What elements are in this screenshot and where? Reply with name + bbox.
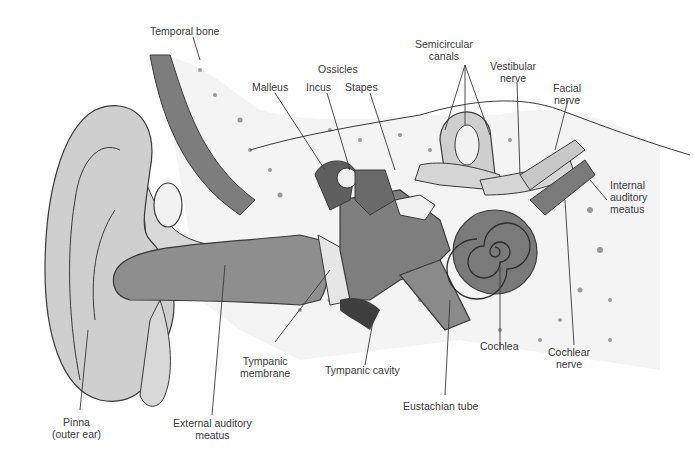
label-internal-auditory-meatus: Internal auditory meatus [610, 179, 647, 215]
label-pinna-line2: (outer ear) [52, 428, 101, 440]
label-pinna-line1: Pinna [52, 416, 101, 428]
label-vestibular-line2: nerve [490, 72, 536, 84]
label-tm-line2: membrane [240, 367, 290, 379]
label-iam-line1: Internal [610, 179, 647, 191]
label-tm-line1: Tympanic [240, 355, 290, 367]
label-temporal-bone: Temporal bone [150, 25, 219, 37]
label-tympanic-membrane: Tympanic membrane [240, 355, 290, 379]
label-tympanic-cavity: Tympanic cavity [325, 364, 400, 376]
label-external-auditory-meatus: External auditory meatus [173, 417, 252, 441]
label-cochlea: Cochlea [480, 340, 519, 352]
label-stapes: Stapes [345, 81, 378, 93]
label-semicircular-line2: canals [415, 50, 473, 62]
label-facial-line2: nerve [553, 94, 581, 106]
label-semicircular-canals: Semicircular canals [415, 38, 473, 62]
label-iam-line2: auditory [610, 191, 647, 203]
label-cochlear-nerve-line2: nerve [548, 358, 590, 370]
label-incus: Incus [306, 81, 331, 93]
label-facial-line1: Facial [553, 82, 581, 94]
label-cochlear-nerve: Cochlear nerve [548, 346, 590, 370]
label-iam-line3: meatus [610, 203, 647, 215]
label-eam-line2: meatus [173, 429, 252, 441]
label-vestibular-nerve: Vestibular nerve [490, 60, 536, 84]
label-vestibular-line1: Vestibular [490, 60, 536, 72]
label-cochlear-nerve-line1: Cochlear [548, 346, 590, 358]
label-facial-nerve: Facial nerve [553, 82, 581, 106]
label-semicircular-line1: Semicircular [415, 38, 473, 50]
label-ossicles: Ossicles [318, 63, 358, 75]
label-pinna: Pinna (outer ear) [52, 416, 101, 440]
label-eustachian-tube: Eustachian tube [403, 400, 478, 412]
label-malleus: Malleus [252, 81, 288, 93]
label-eam-line1: External auditory [173, 417, 252, 429]
